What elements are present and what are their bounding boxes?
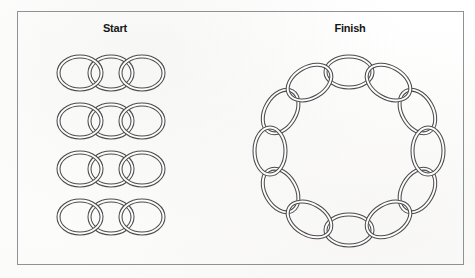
link-inner-outline [60, 58, 100, 88]
link-occluder-band [59, 57, 102, 90]
link-inner-outline [60, 202, 100, 232]
link-occluder-band [121, 105, 164, 138]
start-link-4-3 [119, 199, 165, 235]
start-chain-row-2 [57, 103, 165, 139]
link-inner-outline [256, 129, 284, 173]
link-outer-outline [57, 199, 103, 235]
link-outer-outline [119, 55, 165, 91]
start-chain-row-3 [57, 151, 165, 187]
start-chain-row-4 [57, 199, 165, 235]
start-link-2-1 [57, 103, 103, 139]
start-link-1-3 [119, 55, 165, 91]
link-inner-outline [327, 58, 371, 86]
link-inner-outline [60, 154, 100, 184]
link-occluder-band [59, 201, 102, 234]
link-occluder-band [59, 153, 102, 186]
link-inner-outline [327, 216, 371, 244]
start-chain-group [57, 55, 165, 235]
link-outer-outline [119, 151, 165, 187]
link-outer-outline [57, 151, 103, 187]
link-inner-outline [414, 129, 442, 173]
start-link-3-1 [57, 151, 103, 187]
link-occluder-band [59, 105, 102, 138]
figure-page: Start Finish [0, 0, 475, 278]
link-inner-outline [60, 106, 100, 136]
start-link-4-1 [57, 199, 103, 235]
start-link-1-1 [57, 55, 103, 91]
link-outer-outline [119, 199, 165, 235]
start-link-2-3 [119, 103, 165, 139]
link-inner-outline [122, 58, 162, 88]
link-inner-outline [122, 106, 162, 136]
link-occluder-band [121, 153, 164, 186]
link-outer-outline [119, 103, 165, 139]
link-occluder-band [121, 57, 164, 90]
link-outer-outline [57, 103, 103, 139]
chain-link-illustration [0, 0, 475, 278]
link-inner-outline [122, 202, 162, 232]
link-inner-outline [122, 154, 162, 184]
finish-chain-circle-group [253, 55, 445, 247]
start-link-3-3 [119, 151, 165, 187]
start-chain-row-1 [57, 55, 165, 91]
link-outer-outline [57, 55, 103, 91]
link-occluder-band [121, 201, 164, 234]
